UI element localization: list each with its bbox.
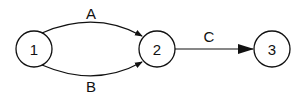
- node-label-3: 3: [268, 41, 276, 58]
- node-3: 3: [254, 31, 290, 67]
- edge-c: C: [175, 28, 253, 49]
- edge-a: A: [42, 5, 142, 36]
- node-2: 2: [139, 31, 175, 67]
- edge-label-a: A: [86, 5, 96, 22]
- graph-diagram: A B C 1 2 3: [0, 0, 303, 94]
- edge-label-c: C: [204, 28, 215, 45]
- node-label-1: 1: [30, 41, 38, 58]
- node-label-2: 2: [153, 41, 161, 58]
- node-1: 1: [16, 31, 52, 67]
- edge-b: B: [42, 62, 142, 94]
- edge-label-b: B: [86, 78, 96, 94]
